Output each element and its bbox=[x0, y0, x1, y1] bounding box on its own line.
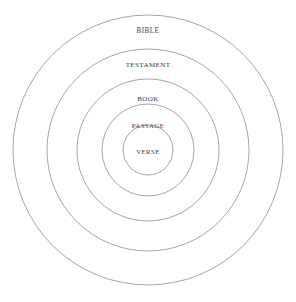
ring-label-passage: PASSAGE bbox=[132, 122, 164, 129]
ring-label-verse: VERSE bbox=[136, 148, 160, 155]
hierarchy-svg-canvas: BIBLE TESTAMENT BOOK PASSAGE VERSE bbox=[0, 0, 296, 302]
concentric-hierarchy-diagram: BIBLE TESTAMENT BOOK PASSAGE VERSE bbox=[0, 0, 296, 302]
ring-label-bible: BIBLE bbox=[137, 27, 160, 35]
ring-label-book: BOOK bbox=[137, 95, 158, 103]
ring-label-testament: TESTAMENT bbox=[126, 61, 171, 69]
